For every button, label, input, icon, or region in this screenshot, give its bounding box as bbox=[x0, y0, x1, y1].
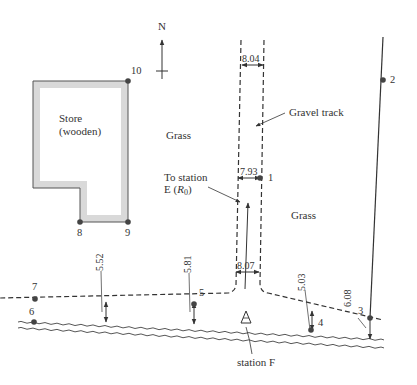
survey-point-label-8: 8 bbox=[77, 227, 82, 238]
gravel-track-leader bbox=[256, 113, 285, 126]
offset-label-5-52: 5.52 bbox=[94, 254, 105, 272]
north-label: N bbox=[158, 20, 166, 32]
survey-point-label-7: 7 bbox=[32, 281, 37, 292]
survey-point-label-10: 10 bbox=[131, 65, 142, 76]
store-label-line1: Store bbox=[59, 112, 82, 124]
survey-point-2 bbox=[380, 77, 386, 83]
survey-point-label-4: 4 bbox=[318, 317, 324, 328]
station-f-marker: station F bbox=[237, 311, 275, 368]
offset-label-5-81: 5.81 bbox=[182, 256, 193, 274]
survey-point-3 bbox=[367, 315, 373, 321]
road-edge bbox=[18, 321, 384, 348]
direction-to-station-e bbox=[245, 203, 248, 289]
survey-point-label-6: 6 bbox=[29, 306, 34, 317]
offset-leader-5-81 bbox=[189, 273, 190, 312]
to-station-label-line2: E (R0) bbox=[164, 183, 192, 197]
dim-label-track-top: 8.04 bbox=[242, 53, 260, 64]
station-e-leader bbox=[208, 187, 240, 202]
grass-label-left: Grass bbox=[166, 129, 191, 141]
survey-point-label-2: 2 bbox=[390, 74, 395, 85]
offset-label-6-08: 6.08 bbox=[342, 290, 353, 308]
survey-point-10 bbox=[125, 78, 131, 84]
to-station-label-line1: To station bbox=[164, 171, 208, 183]
north-arrow: N bbox=[156, 20, 168, 79]
survey-point-5 bbox=[191, 301, 197, 307]
offset-leader-6-08 bbox=[358, 318, 366, 328]
store-building: Store (wooden) bbox=[33, 81, 128, 222]
station-f-label: station F bbox=[237, 356, 275, 368]
store-label-line2: (wooden) bbox=[59, 125, 101, 138]
offset-leader-5-03 bbox=[305, 290, 310, 330]
gravel-track-label: Gravel track bbox=[289, 106, 344, 118]
survey-point-label-5: 5 bbox=[199, 287, 204, 298]
offset-leader-5-52 bbox=[101, 271, 102, 312]
survey-point-7 bbox=[32, 296, 38, 302]
survey-point-9 bbox=[125, 219, 131, 225]
survey-point-8 bbox=[77, 219, 83, 225]
grass-label-right: Grass bbox=[291, 209, 316, 221]
survey-diagram: N Store (wooden) 8.04 7.93 8.07 Gravel t… bbox=[0, 0, 417, 385]
dim-label-track-mid: 7.93 bbox=[240, 166, 258, 177]
survey-point-label-3: 3 bbox=[358, 305, 363, 316]
survey-point-1 bbox=[257, 175, 263, 181]
survey-point-6 bbox=[31, 319, 37, 325]
station-f-triangle-icon bbox=[241, 311, 251, 323]
survey-point-4 bbox=[308, 327, 314, 333]
survey-point-label-1: 1 bbox=[268, 172, 273, 183]
survey-point-label-9: 9 bbox=[125, 227, 130, 238]
offset-label-5-03: 5.03 bbox=[296, 274, 307, 292]
track-right-edge bbox=[260, 40, 383, 320]
